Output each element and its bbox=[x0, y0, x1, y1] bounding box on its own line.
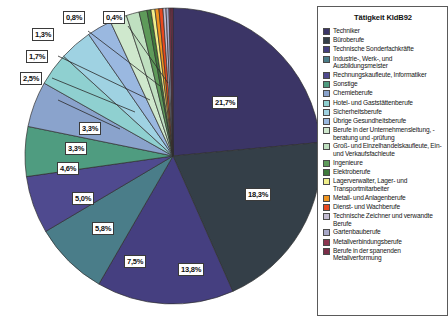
legend-item[interactable]: Hotel- und Gaststättenberufe bbox=[321, 99, 445, 107]
legend-item-label: Groß- und Einzelhandelskaufleute, Ein- u… bbox=[333, 142, 445, 157]
legend-item[interactable]: Rechnungskaufleute, Informatiker bbox=[321, 71, 445, 79]
legend-item[interactable]: Metallverbindungsberufe bbox=[321, 238, 445, 246]
legend-item-label: Gartenbauberufe bbox=[333, 228, 381, 236]
legend-color-swatch bbox=[323, 143, 330, 150]
legend-item[interactable]: Sonstige bbox=[321, 80, 445, 88]
slice-label-1-3: 1,3% bbox=[32, 28, 54, 41]
legend-item-label: Industrie-, Werk-, und Ausbildungsmeiste… bbox=[333, 55, 445, 70]
legend-item-label: Technische Sonderfachkräfte bbox=[333, 45, 414, 53]
legend-color-swatch bbox=[323, 28, 330, 35]
legend-color-swatch bbox=[323, 127, 330, 134]
legend-item[interactable]: Chemieberufe bbox=[321, 89, 445, 97]
slice-label-5-0: 5,0% bbox=[72, 192, 94, 205]
legend-item[interactable]: Elektroberufe bbox=[321, 168, 445, 176]
legend-item[interactable]: Lagerverwalter, Lager- und Transportmita… bbox=[321, 177, 445, 192]
legend-item-label: Metallverbindungsberufe bbox=[333, 238, 402, 246]
legend-color-swatch bbox=[323, 178, 330, 185]
slice-label-13-8: 13,8% bbox=[178, 263, 204, 276]
legend-item[interactable]: Gartenbauberufe bbox=[321, 228, 445, 236]
legend-item[interactable]: Berufe in der spanenden Metallverformung bbox=[321, 247, 445, 262]
slice-label-4-6: 4,6% bbox=[57, 162, 79, 175]
legend-color-swatch bbox=[323, 239, 330, 246]
pie-slice[interactable] bbox=[173, 8, 320, 156]
legend-item[interactable]: Sicherheitsberufe bbox=[321, 108, 445, 116]
slice-label-3-3-a: 3,3% bbox=[65, 142, 87, 155]
legend-color-swatch bbox=[323, 81, 330, 88]
slice-label-3-3-b: 3,3% bbox=[79, 122, 101, 135]
slice-label-2-5: 2,5% bbox=[20, 72, 42, 85]
legend-color-swatch bbox=[323, 46, 330, 53]
pie-chart-figure: 21,7% 18,3% 13,8% 7,5% 5,8% 5,0% 4,6% 3,… bbox=[0, 0, 448, 322]
legend-color-swatch bbox=[323, 72, 330, 79]
slice-label-0-4: 0,4% bbox=[103, 11, 125, 24]
legend-item-label: Büroberufe bbox=[333, 36, 364, 44]
legend-color-swatch bbox=[323, 248, 330, 255]
legend-color-swatch bbox=[323, 195, 330, 202]
legend-item-label: Elektroberufe bbox=[333, 168, 370, 176]
legend-color-swatch bbox=[323, 118, 330, 125]
legend-color-swatch bbox=[323, 160, 330, 167]
slice-label-1-7: 1,7% bbox=[26, 50, 48, 63]
legend-item-label: Technische Zeichner und verwandte Berufe bbox=[333, 212, 445, 227]
legend-item-label: Berufe in der Unternehmensleitung, -bera… bbox=[333, 126, 445, 141]
legend-color-swatch bbox=[323, 213, 330, 220]
legend-item-label: Ingenieure bbox=[333, 159, 363, 167]
legend-item-label: Sonstige bbox=[333, 80, 357, 88]
legend-title: Tätigkeit KldB92 bbox=[321, 13, 445, 22]
legend-color-swatch bbox=[323, 100, 330, 107]
legend-item-label: Dienst- und Wachberufe bbox=[333, 203, 400, 211]
legend-item[interactable]: Berufe in der Unternehmensleitung, -bera… bbox=[321, 126, 445, 141]
slice-label-0-8: 0,8% bbox=[63, 11, 85, 24]
legend-item-label: Techniker bbox=[333, 27, 360, 35]
pie-chart-svg bbox=[0, 0, 320, 322]
slice-label-7-5: 7,5% bbox=[124, 255, 146, 268]
legend-item-label: Sicherheitsberufe bbox=[333, 108, 382, 116]
pie-chart-area: 21,7% 18,3% 13,8% 7,5% 5,8% 5,0% 4,6% 3,… bbox=[0, 0, 320, 322]
legend-items: TechnikerBüroberufeTechnische Sonderfach… bbox=[321, 27, 445, 262]
legend-color-swatch bbox=[323, 109, 330, 116]
legend-item-label: Rechnungskaufleute, Informatiker bbox=[333, 71, 427, 79]
legend-color-swatch bbox=[323, 90, 330, 97]
slice-label-5-8: 5,8% bbox=[92, 222, 114, 235]
legend-item[interactable]: Technische Zeichner und verwandte Berufe bbox=[321, 212, 445, 227]
slice-label-21-7: 21,7% bbox=[212, 96, 238, 109]
legend-item[interactable]: Industrie-, Werk-, und Ausbildungsmeiste… bbox=[321, 55, 445, 70]
legend-color-swatch bbox=[323, 229, 330, 236]
legend-item[interactable]: Ingenieure bbox=[321, 159, 445, 167]
legend-item-label: Lagerverwalter, Lager- und Transportmita… bbox=[333, 177, 445, 192]
legend-item[interactable]: Metall- und Anlagenberufe bbox=[321, 194, 445, 202]
legend-item[interactable]: Übrige Gesundheitsberufe bbox=[321, 117, 445, 125]
slice-label-18-3: 18,3% bbox=[245, 188, 271, 201]
legend-item-label: Übrige Gesundheitsberufe bbox=[333, 117, 406, 125]
legend-item[interactable]: Dienst- und Wachberufe bbox=[321, 203, 445, 211]
legend-item-label: Chemieberufe bbox=[333, 89, 373, 97]
legend-item-label: Metall- und Anlagenberufe bbox=[333, 194, 406, 202]
legend-color-swatch bbox=[323, 169, 330, 176]
legend-color-swatch bbox=[323, 37, 330, 44]
legend-color-swatch bbox=[323, 204, 330, 211]
legend-item[interactable]: Technische Sonderfachkräfte bbox=[321, 45, 445, 53]
legend-item-label: Berufe in der spanenden Metallverformung bbox=[333, 247, 445, 262]
legend-item[interactable]: Büroberufe bbox=[321, 36, 445, 44]
legend-item-label: Hotel- und Gaststättenberufe bbox=[333, 99, 413, 107]
legend-item[interactable]: Groß- und Einzelhandelskaufleute, Ein- u… bbox=[321, 142, 445, 157]
legend-panel: Tätigkeit KldB92 TechnikerBüroberufeTech… bbox=[317, 6, 448, 316]
legend-item[interactable]: Techniker bbox=[321, 27, 445, 35]
legend-color-swatch bbox=[323, 56, 330, 63]
